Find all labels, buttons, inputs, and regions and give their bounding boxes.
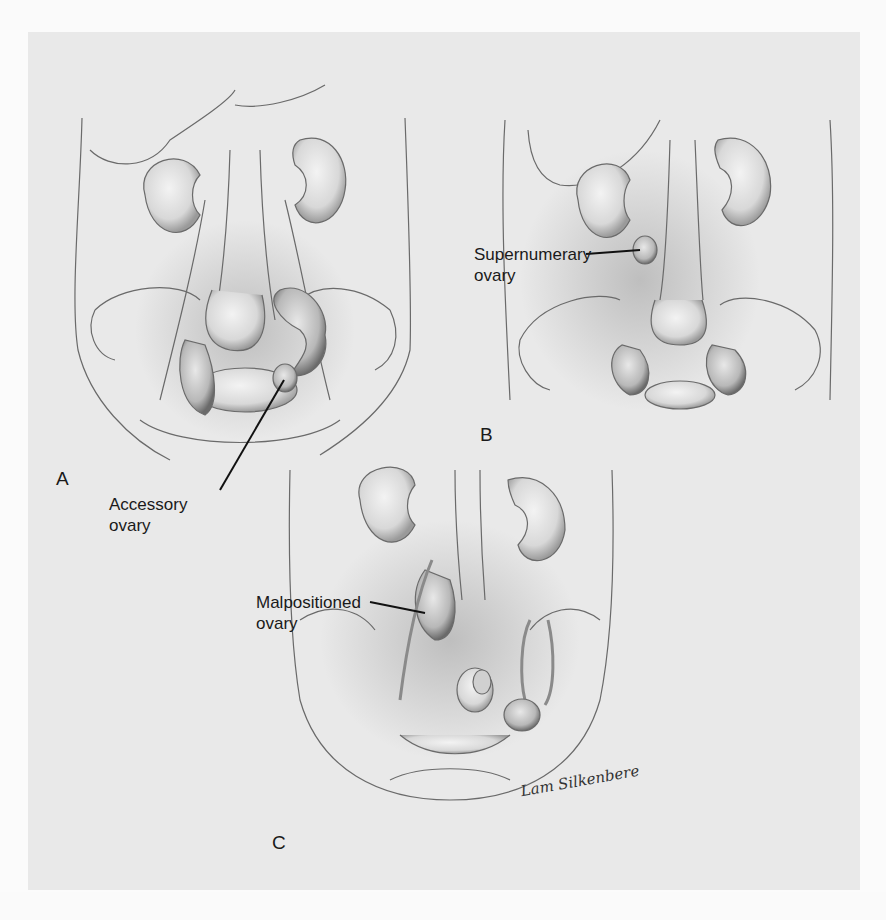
label-accessory-line1: Accessory <box>109 494 187 515</box>
label-supernumerary-line2: ovary <box>474 265 591 286</box>
label-malpositioned-ovary: Malpositioned ovary <box>256 592 361 634</box>
page-bottom-margin <box>0 892 886 920</box>
anatomical-illustration <box>0 0 886 920</box>
panel-letter-a: A <box>56 468 69 489</box>
panel-a-drawing <box>75 85 411 460</box>
label-malpositioned-line2: ovary <box>256 613 361 634</box>
label-accessory-line2: ovary <box>109 515 187 536</box>
label-supernumerary-ovary: Supernumerary ovary <box>474 244 591 286</box>
label-malpositioned-line1: Malpositioned <box>256 592 361 613</box>
panel-letter-c: C <box>272 832 286 853</box>
panel-letter-b: B <box>480 424 493 445</box>
label-supernumerary-line1: Supernumerary <box>474 244 591 265</box>
label-accessory-ovary: Accessory ovary <box>109 494 187 536</box>
